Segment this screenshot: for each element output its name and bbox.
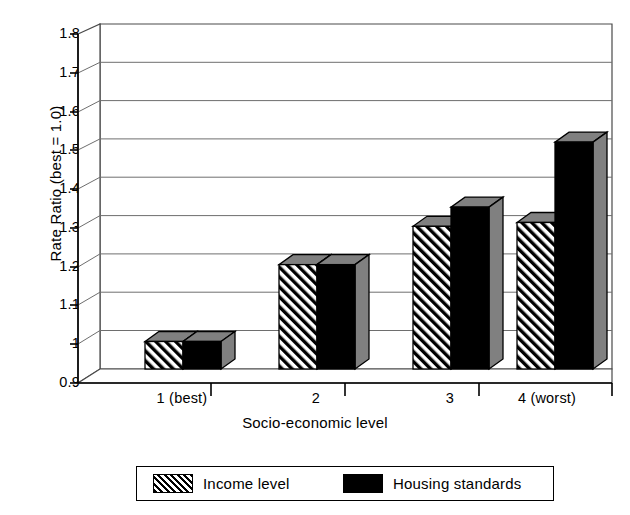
chart-legend: Income level Housing standards — [136, 466, 554, 501]
plot-left-wall — [78, 24, 100, 383]
bar-chart: Rate Ratio (best = 1.0) 1.8 1.7 1.6 1.5 … — [0, 0, 630, 515]
legend-label: Housing standards — [393, 475, 521, 492]
x-tick-label-1: 1 (best) — [157, 390, 208, 406]
bar-housing-1 — [183, 332, 235, 370]
bar-housing-2 — [317, 255, 369, 369]
legend-swatch-solid-icon — [343, 474, 383, 493]
plot-floor — [78, 369, 612, 383]
legend-item-housing-standards: Housing standards — [343, 467, 521, 500]
x-tick-label-3: 3 — [446, 390, 454, 406]
x-tick-label-2: 2 — [312, 390, 320, 406]
legend-swatch-hatch-icon — [153, 474, 193, 493]
bar-group-2 — [279, 255, 369, 369]
plot-area — [0, 0, 630, 515]
legend-label: Income level — [203, 475, 290, 492]
bar-housing-3 — [451, 197, 503, 369]
y-axis — [70, 34, 78, 383]
x-tick-label-4: 4 (worst) — [518, 390, 576, 406]
bar-housing-4 — [555, 132, 607, 369]
x-axis-title: Socio-economic level — [0, 414, 630, 431]
bar-group-3 — [413, 197, 503, 369]
legend-item-income-level: Income level — [153, 467, 290, 500]
bar-group-1 — [145, 332, 235, 370]
